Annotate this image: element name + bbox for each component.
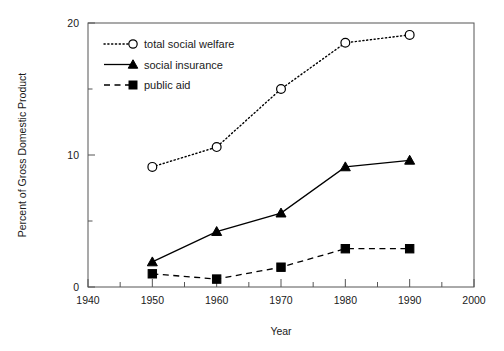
line-chart: 01020 1940195019601970198019902000 total… [0,0,504,351]
marker-filled-square [212,275,220,283]
marker-filled-square [341,245,349,253]
legend-label: public aid [144,79,190,91]
x-axis-title: Year [270,325,292,337]
x-tick-label: 1960 [205,294,229,306]
y-tick-label: 10 [67,149,79,161]
series-3 [148,245,414,284]
x-tick-label: 1980 [334,294,358,306]
legend-label: total social welfare [144,38,235,50]
y-tick-label: 0 [73,281,79,293]
marker-filled-triangle [276,208,286,217]
x-tick-label: 1940 [76,294,100,306]
y-tick-label: 20 [67,17,79,29]
y-axis-title: Percent of Gross Domestic Product [16,73,28,238]
marker-open-circle [148,162,157,171]
series-line [152,35,409,167]
marker-filled-triangle [147,257,157,266]
x-tick-label: 1950 [141,294,165,306]
marker-filled-square [129,81,137,89]
x-axis-ticks [88,279,474,287]
legend-label: social insurance [144,59,223,71]
marker-filled-triangle [405,155,415,164]
marker-filled-square [405,245,413,253]
marker-open-circle [129,40,137,48]
chart-figure: 01020 1940195019601970198019902000 total… [0,0,504,351]
legend-item-2[interactable]: social insurance [104,59,223,71]
x-tick-label: 1990 [398,294,422,306]
y-axis-tick-labels: 01020 [67,17,79,293]
marker-filled-square [277,263,285,271]
y-axis-ticks [88,23,95,287]
marker-open-circle [405,30,414,39]
legend-item-3[interactable]: public aid [104,79,190,91]
x-tick-label: 2000 [462,294,486,306]
series-1 [148,30,414,171]
x-tick-label: 1970 [269,294,293,306]
marker-filled-square [148,270,156,278]
marker-open-circle [277,85,286,94]
x-axis-tick-labels: 1940195019601970198019902000 [76,294,486,306]
marker-open-circle [341,38,350,47]
legend-item-1[interactable]: total social welfare [104,38,235,50]
marker-open-circle [212,143,221,152]
chart-legend: total social welfaresocial insurancepubl… [104,38,235,91]
